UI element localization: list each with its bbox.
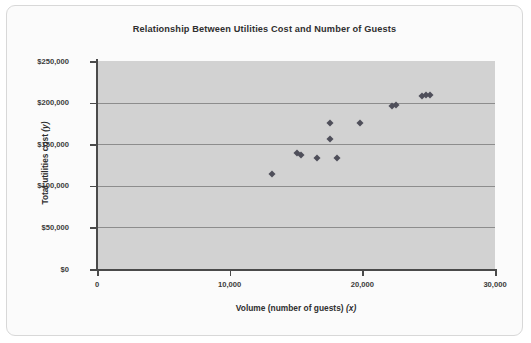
x-axis-tick-label: 30,000: [465, 280, 523, 289]
gridline: [97, 186, 495, 187]
chart-card: Relationship Between Utilities Cost and …: [6, 5, 523, 336]
x-axis-title: Volume (number of guests) (x): [97, 303, 495, 313]
y-axis-tick-label: $150,000: [6, 140, 69, 149]
scatter-point: [356, 119, 363, 126]
x-axis-tick: [495, 269, 497, 276]
scatter-point: [297, 151, 304, 158]
x-axis-title-text: Volume (number of guests): [236, 303, 344, 313]
x-axis-variable: (x): [346, 303, 356, 313]
y-axis-tick-label: $50,000: [6, 223, 69, 232]
y-axis-tick-label: $100,000: [6, 181, 69, 190]
y-axis-variable: (y): [40, 121, 50, 131]
x-axis-line: [96, 269, 496, 271]
scatter-point: [334, 155, 341, 162]
y-axis-tick-label: $200,000: [6, 98, 69, 107]
x-axis-tick: [230, 269, 232, 276]
y-axis-title-text: Total utilities cost: [40, 134, 50, 205]
y-axis-tick: [90, 144, 97, 146]
y-axis-tick-label: $250,000: [6, 57, 69, 66]
y-axis-tick: [90, 227, 97, 229]
y-axis-tick: [90, 61, 97, 63]
x-axis-tick-label: 20,000: [332, 280, 392, 289]
chart-title: Relationship Between Utilities Cost and …: [7, 24, 522, 34]
scatter-point: [269, 171, 276, 178]
scatter-point: [327, 136, 334, 143]
y-axis-tick-label: $0: [6, 265, 69, 274]
gridline: [97, 103, 495, 104]
scatter-point: [327, 120, 334, 127]
gridline: [97, 144, 495, 145]
y-axis-tick: [90, 103, 97, 105]
gridline: [97, 227, 495, 228]
x-axis-tick: [97, 269, 99, 276]
x-axis-tick-label: 10,000: [200, 280, 260, 289]
x-axis-tick-label: 0: [67, 280, 127, 289]
y-axis-title: Total utilities cost (y): [40, 63, 50, 263]
y-axis-line: [96, 59, 98, 271]
y-axis-tick: [90, 186, 97, 188]
y-axis-tick: [90, 269, 97, 271]
plot-area: [97, 61, 495, 269]
scatter-point: [426, 92, 433, 99]
x-axis-tick: [362, 269, 364, 276]
scatter-point: [314, 155, 321, 162]
